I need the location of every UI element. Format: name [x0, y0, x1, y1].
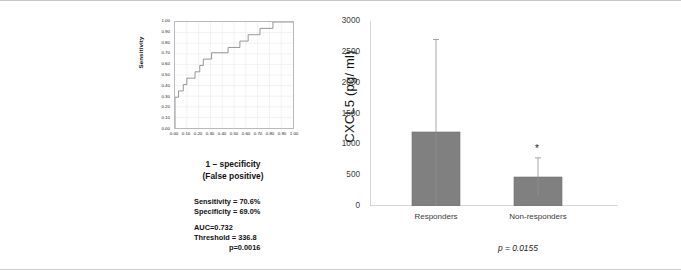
- panel-a-roc-chart: A Sensitivity 0.000.100.200.300.400.500.…: [128, 11, 333, 261]
- significance-asterisk: *: [535, 144, 539, 154]
- roc-y-tick: 0.60: [148, 62, 170, 66]
- bar-y-tick: 0: [326, 202, 360, 210]
- roc-y-tick: 0.20: [148, 105, 170, 109]
- roc-y-axis-title: Sensitivity: [137, 23, 144, 83]
- roc-y-tick: 0.00: [148, 127, 170, 131]
- bar-x-tick: Non-responders: [493, 213, 583, 221]
- roc-stat-threshold: Threshold = 336.8: [194, 233, 260, 243]
- bar-y-tick: 3000: [326, 17, 360, 25]
- roc-x-axis-title: 1 – specificity (False positive): [148, 159, 318, 182]
- bar-y-tick: 2000: [326, 79, 360, 87]
- bar-chart-pvalue: p = 0.0155: [498, 243, 538, 253]
- roc-stat-sensitivity: Sensitivity = 70.6%: [194, 197, 260, 207]
- roc-y-tick: 0.40: [148, 84, 170, 88]
- bar-y-tick: 1000: [326, 140, 360, 148]
- roc-y-tick: 0.30: [148, 95, 170, 99]
- roc-y-tick: 0.50: [148, 73, 170, 77]
- roc-stat-specificity: Specificity = 69.0%: [194, 207, 260, 217]
- roc-stat-pvalue: p=0.0016: [194, 243, 260, 253]
- bar-y-axis-title: CXCL5 (pg/ ml): [342, 22, 357, 172]
- roc-x-axis-title-line2: (False positive): [148, 171, 318, 183]
- roc-stat-auc: AUC=0.732: [194, 223, 260, 233]
- roc-y-tick: 0.90: [148, 30, 170, 34]
- bar-plot-area: [370, 21, 618, 206]
- bar-y-tick: 1500: [326, 110, 360, 118]
- roc-y-tick: 0.70: [148, 51, 170, 55]
- roc-y-tick: 0.10: [148, 116, 170, 120]
- roc-y-tick: 0.80: [148, 41, 170, 45]
- bar-chart-svg: [370, 21, 618, 206]
- roc-statistics-block: Sensitivity = 70.6% Specificity = 69.0% …: [194, 197, 260, 253]
- roc-x-axis-title-line1: 1 – specificity: [148, 159, 318, 171]
- roc-x-tick: 1.00: [286, 132, 302, 136]
- bar-y-tick: 500: [326, 171, 360, 179]
- panel-b-bar-chart: B CXCL5 (pg/ ml) 05001000150020002500300…: [322, 11, 662, 266]
- figure-frame: A Sensitivity 0.000.100.200.300.400.500.…: [0, 0, 681, 270]
- bar-y-tick: 2500: [326, 48, 360, 56]
- bar-x-tick: Responders: [391, 213, 481, 221]
- roc-y-tick: 1.00: [148, 19, 170, 23]
- roc-curve-svg: [175, 22, 293, 128]
- roc-plot-area: [174, 21, 294, 129]
